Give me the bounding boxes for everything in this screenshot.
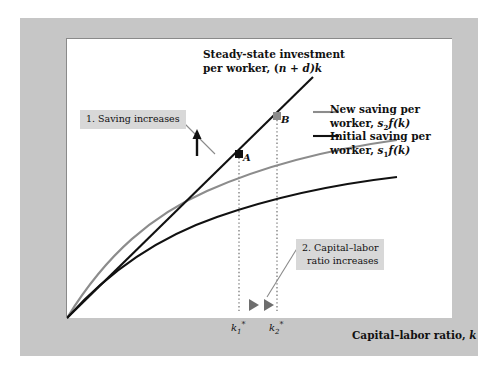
label-initial-saving-line1: Initial saving per bbox=[330, 130, 431, 142]
xtick-label-k2: k2* bbox=[269, 320, 284, 336]
callout-saving-increases: 1. Saving increases bbox=[80, 110, 186, 129]
figure-page: Saving per worker and investment per wor… bbox=[0, 0, 495, 377]
label-steady-state-line1: Steady-state investment bbox=[203, 48, 345, 60]
xtick-label-k1: k1* bbox=[231, 320, 246, 336]
label-new-saving-line1: New saving per bbox=[330, 103, 420, 115]
point-b-label: B bbox=[281, 114, 289, 125]
point-a-marker bbox=[235, 150, 243, 158]
curve-new-saving bbox=[67, 140, 397, 318]
plot-svg bbox=[67, 39, 453, 319]
plot-area bbox=[66, 38, 452, 318]
callout-2-line1: 2. Capital–labor bbox=[302, 242, 378, 253]
point-b-marker bbox=[273, 112, 281, 120]
callout-1-text: 1. Saving increases bbox=[86, 113, 180, 124]
x-axis-label: Capital–labor ratio, k bbox=[352, 329, 476, 341]
label-steady-state-investment: Steady-state investment per worker, (n +… bbox=[203, 48, 345, 75]
arrow-right-1 bbox=[249, 299, 259, 311]
label-steady-state-line2: per worker, (n + d)k bbox=[203, 62, 322, 74]
callout-capital-labor-ratio-increases: 2. Capital–labor ratio increases bbox=[296, 239, 384, 270]
label-initial-saving-line2: worker, s1f(k) bbox=[330, 144, 410, 156]
callout-2-line2: ratio increases bbox=[307, 255, 378, 266]
arrow-right-2 bbox=[264, 299, 274, 311]
x-axis-label-text: Capital–labor ratio, bbox=[352, 329, 469, 341]
label-initial-saving-per-worker: Initial saving per worker, s1f(k) bbox=[330, 130, 431, 161]
point-a-label: A bbox=[243, 152, 251, 163]
label-new-saving-line2: worker, s2f(k) bbox=[330, 117, 410, 129]
x-axis-label-var: k bbox=[469, 329, 476, 341]
